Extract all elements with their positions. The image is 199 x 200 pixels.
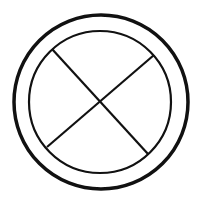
- circled-x-symbol: [0, 0, 199, 200]
- diagonal-line-2: [47, 55, 154, 147]
